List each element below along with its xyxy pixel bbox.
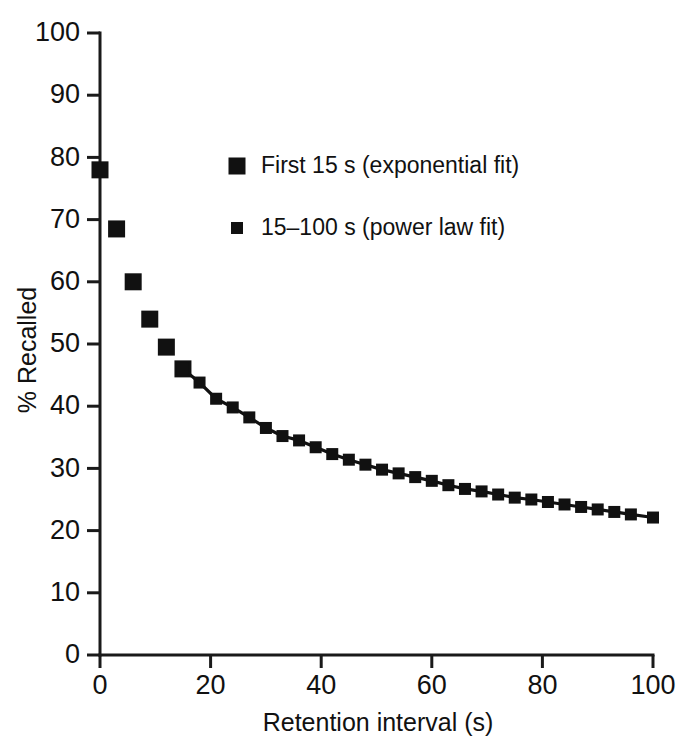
data-point [542, 496, 554, 508]
data-point [426, 475, 438, 487]
y-tick-label-30: 30 [50, 453, 80, 483]
y-tick-label-10: 10 [50, 577, 80, 607]
data-point [92, 161, 109, 178]
x-tick-label-100: 100 [630, 670, 675, 700]
legend-label-1: 15–100 s (power law fit) [261, 214, 505, 240]
data-point [592, 503, 604, 515]
legend-label-0: First 15 s (exponential fit) [261, 152, 519, 178]
chart-background [0, 0, 692, 750]
x-tick-label-60: 60 [417, 670, 447, 700]
legend-item-1: 15–100 s (power law fit) [231, 214, 505, 240]
data-point [409, 471, 421, 483]
data-point [476, 485, 488, 497]
data-point [376, 464, 388, 476]
data-point [260, 422, 272, 434]
data-point [559, 498, 571, 510]
y-axis-title: % Recalled [13, 287, 41, 413]
data-point [310, 441, 322, 453]
data-point [227, 401, 239, 413]
data-point [210, 393, 222, 405]
data-point [608, 506, 620, 518]
data-point [647, 512, 659, 524]
x-tick-label-0: 0 [92, 670, 107, 700]
data-point [125, 273, 142, 290]
data-point [194, 377, 206, 389]
y-tick-label-20: 20 [50, 515, 80, 545]
x-axis-title: Retention interval (s) [263, 708, 494, 736]
x-tick-label-20: 20 [196, 670, 226, 700]
data-point [525, 494, 537, 506]
y-tick-label-60: 60 [50, 266, 80, 296]
y-tick-label-100: 100 [35, 17, 80, 47]
data-point [293, 434, 305, 446]
y-tick-label-50: 50 [50, 328, 80, 358]
data-point [359, 459, 371, 471]
data-point [108, 220, 125, 237]
y-tick-label-80: 80 [50, 142, 80, 172]
data-point [243, 411, 255, 423]
data-point [326, 448, 338, 460]
x-tick-label-40: 40 [306, 670, 336, 700]
y-tick-label-0: 0 [65, 639, 80, 669]
data-point [276, 430, 288, 442]
data-point [393, 467, 405, 479]
x-tick-label-80: 80 [527, 670, 557, 700]
data-point [158, 339, 175, 356]
data-point [141, 311, 158, 328]
legend-marker-0 [229, 158, 246, 175]
data-point [625, 508, 637, 520]
data-point [343, 454, 355, 466]
legend-marker-1 [231, 222, 243, 234]
y-tick-label-70: 70 [50, 204, 80, 234]
data-point [509, 492, 521, 504]
data-point [442, 479, 454, 491]
data-point [459, 483, 471, 495]
chart-figure: 0102030405060708090100 020406080100 % Re… [0, 0, 692, 750]
data-point [492, 489, 504, 501]
legend-item-0: First 15 s (exponential fit) [229, 152, 520, 178]
data-point [575, 501, 587, 513]
y-tick-label-40: 40 [50, 390, 80, 420]
y-tick-label-90: 90 [50, 79, 80, 109]
forgetting-curve-chart: 0102030405060708090100 020406080100 % Re… [0, 0, 692, 750]
data-point [177, 363, 189, 375]
